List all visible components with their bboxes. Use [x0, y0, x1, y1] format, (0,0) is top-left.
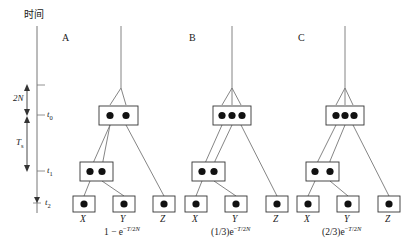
- panel-b-probability-formula: (1/3)e−T/2N: [211, 228, 250, 238]
- allele-dot: [122, 112, 129, 119]
- allele-dot: [98, 168, 105, 175]
- span-label-2N: 2N: [13, 94, 24, 103]
- allele-dot: [385, 200, 392, 207]
- panel-c-ancestral-population-box: [326, 106, 364, 125]
- panel-b-tip-label-z: Z: [273, 215, 278, 225]
- panel-c-internal-population-box: [306, 162, 339, 181]
- allele-dot: [238, 112, 245, 119]
- panel-c-tip-label-x: X: [304, 215, 310, 225]
- panel-b-tip-box-z: [266, 196, 288, 212]
- allele-dot: [341, 112, 348, 119]
- tick-label-t0: t0: [47, 110, 53, 121]
- time-axis: [24, 26, 45, 213]
- allele-dot: [304, 200, 311, 207]
- panel-a-tip-label-z: Z: [160, 215, 165, 225]
- allele-dot: [232, 200, 239, 207]
- allele-dot: [218, 112, 225, 119]
- panel-letter-a: A: [62, 33, 69, 43]
- panel-a-ancestral-population-box: [99, 106, 138, 125]
- allele-dot: [198, 168, 205, 175]
- allele-dot: [120, 200, 127, 207]
- allele-dot: [311, 168, 318, 175]
- allele-dot: [344, 200, 351, 207]
- allele-dot: [332, 112, 339, 119]
- allele-dot: [210, 168, 217, 175]
- span-arrow-t2: [34, 197, 40, 203]
- panel-b-ancestral-population-box: [213, 106, 251, 125]
- panel-c-tip-box-y: [337, 196, 359, 212]
- panel-b-tip-box-x: [185, 196, 207, 212]
- coalescent-gene-tree-figure: 时间 2N Ts t0 t1 t2 A B C X Y Z X Y Z X Y …: [0, 0, 408, 248]
- allele-dot: [192, 200, 199, 207]
- axis-title-time: 时间: [24, 10, 44, 20]
- panel-a-tip-box-x: [73, 196, 95, 212]
- panel-c-tip-label-z: Z: [385, 215, 390, 225]
- panel-a-internal-population-box: [80, 162, 113, 181]
- panel-c-tip-box-x: [297, 196, 319, 212]
- panel-c-tip-box-z: [378, 196, 400, 212]
- allele-dot: [106, 112, 113, 119]
- allele-dot: [80, 200, 87, 207]
- panel-a-tip-box-z: [153, 196, 175, 212]
- panel-a-tip-label-x: X: [80, 215, 86, 225]
- tick-label-t1: t1: [47, 166, 53, 177]
- allele-dot: [228, 112, 235, 119]
- panel-c-probability-formula: (2/3)e−T/2N: [322, 228, 361, 238]
- panel-letter-c: C: [298, 33, 305, 43]
- span-arrow-T: [24, 116, 30, 172]
- panel-c-tip-label-y: Y: [344, 215, 349, 225]
- panel-b-tip-box-y: [225, 196, 247, 212]
- panel-a-tip-label-y: Y: [120, 215, 125, 225]
- tick-label-t2: t2: [45, 198, 51, 209]
- allele-dot: [86, 168, 93, 175]
- allele-dot: [326, 168, 333, 175]
- panel-a-tip-box-y: [113, 196, 135, 212]
- panel-b-tip-label-x: X: [192, 215, 198, 225]
- allele-dot: [160, 200, 167, 207]
- allele-dot: [273, 200, 280, 207]
- span-label-T: Ts: [16, 138, 24, 149]
- panel-letter-b: B: [189, 33, 196, 43]
- panel-b-tip-label-y: Y: [232, 215, 237, 225]
- allele-dot: [350, 112, 357, 119]
- span-arrow-2N: [24, 84, 30, 116]
- panel-b-internal-population-box: [192, 162, 225, 181]
- panel-a-probability-formula: 1 − e−T/2N: [104, 228, 140, 238]
